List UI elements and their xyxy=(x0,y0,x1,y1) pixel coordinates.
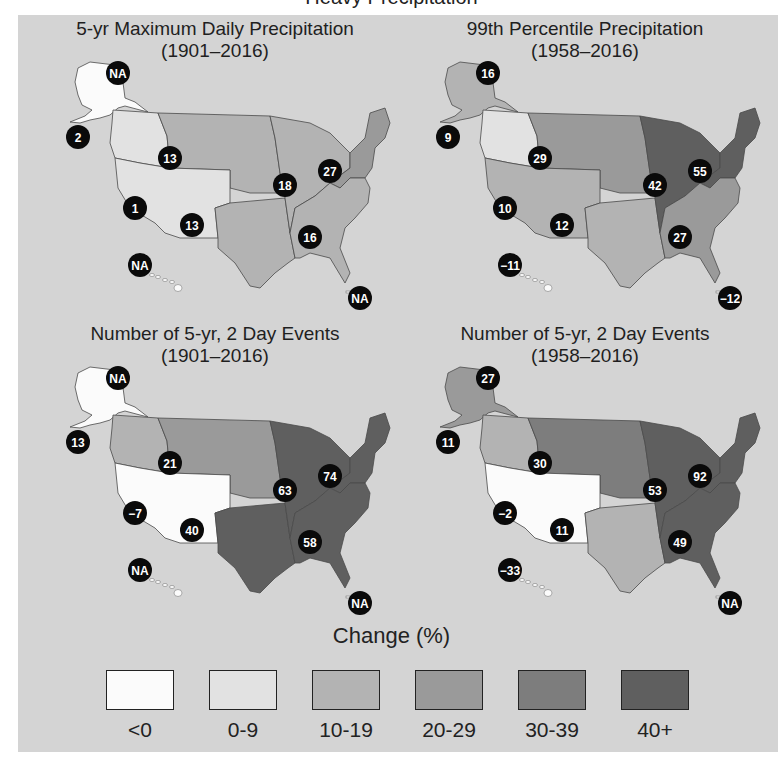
svg-text:11: 11 xyxy=(556,524,569,538)
value-badge-caribbean: NA xyxy=(348,286,372,310)
value-badge-midwest: 42 xyxy=(643,173,667,197)
legend-label: 10-19 xyxy=(311,718,381,742)
region-hawaii-island xyxy=(156,276,161,279)
svg-text:−33: −33 xyxy=(500,564,521,578)
region-hawaii-island xyxy=(520,579,525,582)
value-badge-northwest: 2 xyxy=(66,125,90,149)
region-hawaii-island xyxy=(163,279,168,282)
value-badge-northern-great-plains: 30 xyxy=(528,451,552,475)
value-badge-midwest: 53 xyxy=(643,478,667,502)
region-southern-great-plains xyxy=(215,198,295,288)
svg-text:21: 21 xyxy=(163,457,177,471)
svg-text:−7: −7 xyxy=(128,507,142,521)
svg-text:12: 12 xyxy=(555,219,569,233)
legend-label: 30-39 xyxy=(517,718,587,742)
svg-text:58: 58 xyxy=(303,536,317,550)
region-hawaii-island xyxy=(540,281,545,284)
value-badge-caribbean: −12 xyxy=(718,286,742,310)
svg-text:16: 16 xyxy=(481,67,495,81)
value-badge-caribbean: NA xyxy=(718,591,742,615)
value-badge-southeast: 49 xyxy=(668,530,692,554)
svg-text:NA: NA xyxy=(109,372,127,386)
svg-text:92: 92 xyxy=(693,470,707,484)
region-hawaii-island xyxy=(544,590,552,597)
value-badge-northeast: 74 xyxy=(318,464,342,488)
svg-text:29: 29 xyxy=(533,152,547,166)
legend-item-20-29: 20-29 xyxy=(414,670,484,742)
value-badge-alaska: NA xyxy=(106,61,130,85)
value-badge-midwest: 18 xyxy=(273,173,297,197)
svg-text:9: 9 xyxy=(445,131,452,145)
svg-text:−2: −2 xyxy=(498,507,512,521)
value-badge-southeast: 58 xyxy=(298,530,322,554)
region-southern-great-plains xyxy=(215,503,295,593)
region-hawaii-island xyxy=(150,274,155,277)
legend-swatch xyxy=(621,670,689,710)
svg-text:1: 1 xyxy=(132,202,139,216)
svg-text:10: 10 xyxy=(498,202,512,216)
value-badge-alaska: NA xyxy=(106,366,130,390)
region-hawaii-island xyxy=(520,274,525,277)
legend-item-0-9: 0-9 xyxy=(208,670,278,742)
svg-text:NA: NA xyxy=(351,292,369,306)
region-hawaii-island xyxy=(533,584,538,587)
svg-text:NA: NA xyxy=(131,564,149,578)
map-5yr-2day-events-1958-2016: Number of 5-yr, 2 Day Events (1958–2016)… xyxy=(400,325,770,625)
value-badge-midwest: 63 xyxy=(273,478,297,502)
figure-title-clipped: Heavy Precipitation xyxy=(0,0,783,9)
value-badge-southwest: −2 xyxy=(493,501,517,525)
svg-text:27: 27 xyxy=(673,231,687,245)
legend: <0 0-9 10-19 20-29 30-39 40+ xyxy=(105,670,695,750)
value-badge-northwest: 13 xyxy=(66,430,90,454)
value-badge-hawaii: NA xyxy=(128,558,152,582)
value-badge-alaska: 16 xyxy=(476,61,500,85)
value-badge-caribbean: NA xyxy=(348,591,372,615)
value-badge-northeast: 92 xyxy=(688,464,712,488)
value-badge-northern-great-plains: 21 xyxy=(158,451,182,475)
value-badge-northern-great-plains: 29 xyxy=(528,146,552,170)
map-5yr-max-daily-1901-2016: 5-yr Maximum Daily Precipitation (1901–2… xyxy=(30,20,400,320)
region-hawaii-island xyxy=(526,276,531,279)
svg-text:27: 27 xyxy=(481,372,495,386)
us-regions-map: 169102912425527−11−12 xyxy=(400,20,770,320)
legend-label: 0-9 xyxy=(208,718,278,742)
svg-text:55: 55 xyxy=(693,165,707,179)
value-badge-northeast: 55 xyxy=(688,159,712,183)
value-badge-northeast: 27 xyxy=(318,159,342,183)
value-badge-southwest: 1 xyxy=(123,196,147,220)
region-hawaii-island xyxy=(163,584,168,587)
legend-label: <0 xyxy=(105,718,175,742)
svg-text:2: 2 xyxy=(75,131,82,145)
value-badge-southern-great-plains: 13 xyxy=(180,213,204,237)
svg-text:−11: −11 xyxy=(500,259,520,273)
value-badge-southwest: 10 xyxy=(493,196,517,220)
region-hawaii-island xyxy=(174,590,182,597)
svg-text:NA: NA xyxy=(109,67,127,81)
svg-text:13: 13 xyxy=(185,219,199,233)
svg-text:NA: NA xyxy=(131,259,149,273)
svg-text:NA: NA xyxy=(351,597,369,611)
legend-label: 40+ xyxy=(620,718,690,742)
svg-text:13: 13 xyxy=(71,436,85,450)
region-hawaii-island xyxy=(544,285,552,292)
value-badge-hawaii: −11 xyxy=(498,253,522,277)
value-badge-southern-great-plains: 40 xyxy=(180,518,204,542)
svg-text:42: 42 xyxy=(648,179,662,193)
us-regions-map: 2711−23011539249−33NA xyxy=(400,325,770,625)
legend-swatch xyxy=(415,670,483,710)
value-badge-hawaii: −33 xyxy=(498,558,522,582)
region-hawaii-island xyxy=(174,285,182,292)
svg-text:49: 49 xyxy=(673,536,687,550)
value-badge-southeast: 27 xyxy=(668,225,692,249)
us-regions-map: NA211313182716NANA xyxy=(30,20,400,320)
value-badge-northwest: 9 xyxy=(436,125,460,149)
region-hawaii-island xyxy=(170,281,175,284)
map-5yr-2day-events-1901-2016: Number of 5-yr, 2 Day Events (1901–2016)… xyxy=(30,325,400,625)
svg-text:18: 18 xyxy=(278,179,292,193)
legend-swatch xyxy=(209,670,277,710)
svg-text:53: 53 xyxy=(648,484,662,498)
region-southern-great-plains xyxy=(585,503,665,593)
svg-text:11: 11 xyxy=(442,436,455,450)
value-badge-southern-great-plains: 11 xyxy=(550,518,574,542)
us-regions-map: NA13−72140637458NANA xyxy=(30,325,400,625)
